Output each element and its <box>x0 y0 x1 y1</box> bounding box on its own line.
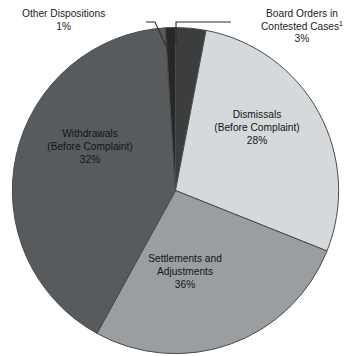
pie-label-board-orders-percent: 3% <box>261 33 343 46</box>
pie-label-withdrawals: Withdrawals (Before Complaint) 32% <box>24 127 156 166</box>
pie-label-withdrawals-name-line1: Withdrawals <box>24 127 156 140</box>
pie-label-board-orders-line2-text: Contested Cases <box>261 21 339 32</box>
pie-label-other-dispositions-percent: 1% <box>22 21 105 34</box>
pie-label-board-orders-name-line1: Board Orders in <box>261 8 343 21</box>
pie-label-other-dispositions: Other Dispositions 1% <box>22 8 105 33</box>
pie-label-other-dispositions-name: Other Dispositions <box>22 8 105 21</box>
pie-slices <box>12 27 338 353</box>
pie-label-dismissals: Dismissals (Before Complaint) 28% <box>196 108 318 147</box>
pie-chart: Other Dispositions 1% Board Orders in Co… <box>0 0 351 356</box>
pie-label-withdrawals-name-line2: (Before Complaint) <box>24 140 156 153</box>
pie-label-withdrawals-percent: 32% <box>24 153 156 166</box>
pie-label-settlements-percent: 36% <box>111 278 259 291</box>
pie-label-board-orders-name-line2: Contested Cases1 <box>261 21 343 34</box>
pie-label-settlements-name-line2: Adjustments <box>111 265 259 278</box>
pie-label-settlements: Settlements and Adjustments 36% <box>111 252 259 291</box>
footnote-marker: 1 <box>339 19 343 26</box>
pie-label-settlements-name-line1: Settlements and <box>111 252 259 265</box>
pie-label-dismissals-name-line1: Dismissals <box>196 108 318 121</box>
pie-label-dismissals-percent: 28% <box>196 134 318 147</box>
pie-label-board-orders: Board Orders in Contested Cases1 3% <box>261 8 343 46</box>
pie-label-dismissals-name-line2: (Before Complaint) <box>196 121 318 134</box>
pie-chart-graphic <box>0 0 351 356</box>
